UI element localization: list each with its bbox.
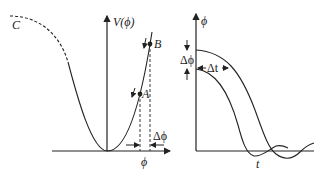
- potential-diagram: C V(ϕ) B A Δϕ ϕ ϕ Δϕ Δt t: [0, 0, 325, 179]
- t-axis-label: t: [256, 157, 260, 171]
- potential-curve: [68, 32, 152, 151]
- arrow-at-b-icon: [144, 38, 146, 48]
- point-b-label: B: [154, 37, 162, 51]
- right-delta-phi-label: Δϕ: [180, 53, 194, 67]
- v-axis-label: V(ϕ): [113, 15, 135, 29]
- phi-axis-label: ϕ: [141, 155, 147, 169]
- curve-label-c: C: [12, 18, 21, 32]
- delta-phi-label: Δϕ: [153, 129, 167, 143]
- right-phi-label: ϕ: [201, 14, 207, 28]
- left-panel: C V(ϕ) B A Δϕ ϕ: [10, 15, 170, 169]
- point-a-label: A: [141, 87, 150, 101]
- delta-t-label: Δt: [207, 61, 219, 75]
- point-b: [148, 42, 153, 47]
- right-panel: ϕ Δϕ Δt t: [180, 14, 314, 171]
- arrow-at-a-icon: [132, 88, 135, 97]
